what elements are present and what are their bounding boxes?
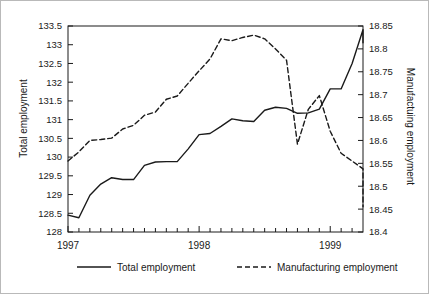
x-axis-tick-label: 1998: [188, 240, 211, 251]
y-axis-left-tick-label: 133.5: [38, 20, 62, 31]
y-axis-left-title: Total employment: [18, 49, 29, 189]
y-axis-right-tick-label: 18.7: [369, 89, 388, 100]
y-axis-left-tick-label: 132.5: [38, 58, 62, 69]
y-axis-right-title: Manufactuing employment: [405, 52, 416, 202]
series-line-2: [68, 35, 363, 207]
y-axis-right-tick-label: 18.75: [369, 66, 393, 77]
y-axis-left-tick-label: 130.5: [38, 133, 62, 144]
plot-border: [68, 26, 363, 232]
legend-label-2: Manufacturing employment: [277, 262, 398, 273]
y-axis-right-tick-label: 18.5: [369, 181, 388, 192]
y-axis-left-tick-label: 132: [46, 77, 62, 88]
y-axis-left-tick-label: 128.5: [38, 208, 62, 219]
y-axis-left-tick-label: 131.5: [38, 95, 62, 106]
y-axis-right-tick-label: 18.8: [369, 43, 388, 54]
y-axis-right-tick-label: 18.65: [369, 112, 393, 123]
x-axis-ticks: 199719981999: [57, 226, 352, 251]
chart-figure: Total employment Manufactuing employment…: [0, 0, 429, 294]
x-axis-tick-label: 1997: [57, 240, 80, 251]
chart-legend: Total employmentManufacturing employment: [77, 262, 398, 273]
series-line-1: [68, 30, 363, 218]
y-axis-left-tick-label: 129.5: [38, 170, 62, 181]
y-axis-right-tick-label: 18.45: [369, 204, 393, 215]
y-axis-right-tick-label: 18.6: [369, 135, 388, 146]
y-axis-right-tick-label: 18.85: [369, 20, 393, 31]
data-series-layer: [68, 30, 363, 218]
y-axis-left-tick-label: 130: [46, 151, 62, 162]
y-axis-right-tick-label: 18.4: [369, 226, 388, 237]
y-axis-left-tick-label: 129: [46, 189, 62, 200]
x-axis-tick-label: 1999: [319, 240, 342, 251]
y-axis-left-tick-label: 128: [46, 226, 62, 237]
legend-label-1: Total employment: [117, 262, 196, 273]
y-axis-right-tick-label: 18.55: [369, 158, 393, 169]
plot-frame: [68, 26, 363, 232]
chart-plot-area: 128128.5129129.5130130.5131131.5132132.5…: [1, 1, 429, 294]
y-axis-left-tick-label: 131: [46, 114, 62, 125]
y-axis-left-tick-label: 133: [46, 39, 62, 50]
